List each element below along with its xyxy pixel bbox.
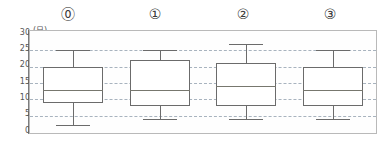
max-cap-3 [316, 50, 350, 51]
upper-whisker-2 [246, 44, 247, 64]
lower-whisker-3 [333, 106, 334, 119]
min-cap-3 [316, 119, 350, 120]
y-tick-label-20: 20 [6, 61, 30, 69]
plot-area [30, 31, 376, 133]
median-line-3 [303, 90, 363, 91]
upper-whisker-1 [160, 50, 161, 60]
max-cap-0 [56, 50, 90, 51]
median-line-1 [130, 90, 190, 91]
group-label-0: ⓪ [48, 4, 88, 24]
y-tick-label-10: 10 [6, 94, 30, 102]
group-label-3: ③ [310, 4, 350, 24]
group-label-2: ② [223, 4, 263, 24]
lower-whisker-2 [246, 106, 247, 119]
min-cap-0 [56, 125, 90, 126]
y-tick-label-5: 5 [6, 110, 30, 118]
gridline-5 [30, 116, 376, 117]
boxplot-figure: ⓪ ① ② ③ 30 25 20 15 10 5 0 (日) [0, 0, 385, 145]
group-label-1: ① [135, 4, 175, 24]
y-tick-label-0: 0 [6, 127, 30, 135]
max-cap-2 [229, 44, 263, 45]
median-line-2 [216, 86, 276, 87]
plot-frame [29, 30, 377, 134]
lower-whisker-0 [73, 103, 74, 126]
y-tick-label-15: 15 [6, 78, 30, 86]
upper-whisker-0 [73, 50, 74, 66]
min-cap-2 [229, 119, 263, 120]
max-cap-1 [143, 50, 177, 51]
min-cap-1 [143, 119, 177, 120]
box-1 [130, 60, 190, 106]
box-2 [216, 63, 276, 105]
lower-whisker-1 [160, 106, 161, 119]
group-label-row: ⓪ ① ② ③ [0, 0, 385, 30]
box-0 [43, 67, 103, 103]
y-tick-label-25: 25 [6, 45, 30, 53]
box-3 [303, 67, 363, 106]
median-line-0 [43, 90, 103, 91]
y-tick-label-30: 30 [6, 29, 30, 37]
upper-whisker-3 [333, 50, 334, 66]
